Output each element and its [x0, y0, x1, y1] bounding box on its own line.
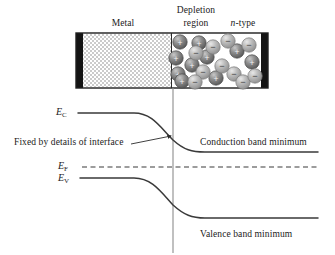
negative-charge: −	[189, 46, 203, 60]
svg-text:+: +	[205, 53, 210, 63]
svg-text:−: −	[193, 48, 198, 58]
negative-charge: −	[206, 40, 220, 54]
svg-text:+: +	[178, 38, 183, 48]
svg-text:−: −	[210, 42, 215, 52]
conduction-band-curve	[78, 113, 318, 152]
interface-annotation-arrow	[131, 136, 171, 144]
negative-charge: −	[215, 59, 229, 73]
positive-charge: +	[173, 35, 187, 49]
svg-text:−: −	[219, 61, 224, 71]
negative-charge: −	[242, 38, 256, 52]
positive-charge: +	[169, 51, 183, 65]
left-contact	[76, 33, 83, 88]
negative-charge: −	[221, 34, 235, 48]
metal-region	[82, 34, 171, 87]
negative-charge: −	[188, 75, 202, 89]
band-diagram-figure: Metal Depletion region n-type EC EF EV F…	[0, 0, 335, 255]
svg-text:+: +	[235, 47, 240, 57]
svg-text:+: +	[174, 54, 179, 64]
svg-text:−: −	[240, 77, 245, 87]
svg-text:+: +	[250, 58, 255, 68]
positive-charge: +	[245, 55, 259, 69]
valence-band-curve	[80, 178, 318, 218]
svg-text:−: −	[192, 77, 197, 87]
svg-text:+: +	[180, 77, 185, 87]
positive-charge: +	[175, 74, 189, 88]
diagram-canvas: + + + + + + +	[0, 0, 335, 255]
negative-charge: −	[248, 69, 262, 83]
svg-text:−: −	[252, 71, 257, 81]
right-contact	[261, 33, 268, 88]
svg-text:−: −	[200, 67, 205, 77]
svg-text:+: +	[214, 74, 219, 84]
svg-text:−: −	[231, 69, 236, 79]
svg-text:+: +	[190, 61, 195, 71]
svg-text:−: −	[246, 40, 251, 50]
svg-text:−: −	[225, 36, 230, 46]
